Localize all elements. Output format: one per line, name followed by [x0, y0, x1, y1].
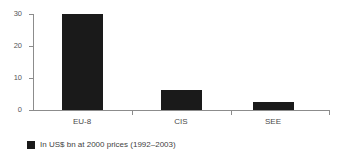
x-tick-2 — [231, 110, 232, 115]
y-tick-0 — [29, 110, 34, 111]
x-tick-1 — [132, 110, 133, 115]
y-tick-20 — [29, 46, 34, 47]
legend-item-label: In US$ bn at 2000 prices (1992–2003) — [40, 141, 176, 149]
y-tick-10 — [29, 78, 34, 79]
y-tick-label-10: 10 — [14, 74, 22, 82]
y-tick-30 — [29, 14, 34, 15]
plot-area: 30 20 10 0 EU-8 CIS SEE — [33, 14, 330, 110]
legend-swatch-icon — [27, 141, 35, 149]
x-tick-label-cis: CIS — [174, 118, 187, 126]
x-tick-3 — [329, 110, 330, 115]
bar-see — [253, 102, 294, 110]
x-tick-label-eu-8: EU-8 — [73, 118, 91, 126]
x-axis-line — [33, 110, 330, 111]
chart-legend: In US$ bn at 2000 prices (1992–2003) — [27, 141, 176, 149]
bar-chart: 30 20 10 0 EU-8 CIS SEE In US$ bn at 200… — [0, 0, 337, 163]
x-tick-label-see: SEE — [265, 118, 281, 126]
y-tick-label-0: 0 — [18, 106, 22, 114]
bar-cis — [161, 90, 202, 110]
y-tick-label-30: 30 — [14, 10, 22, 18]
y-tick-label-20: 20 — [14, 42, 22, 50]
y-axis-line — [33, 14, 34, 110]
bar-eu-8 — [62, 14, 103, 110]
